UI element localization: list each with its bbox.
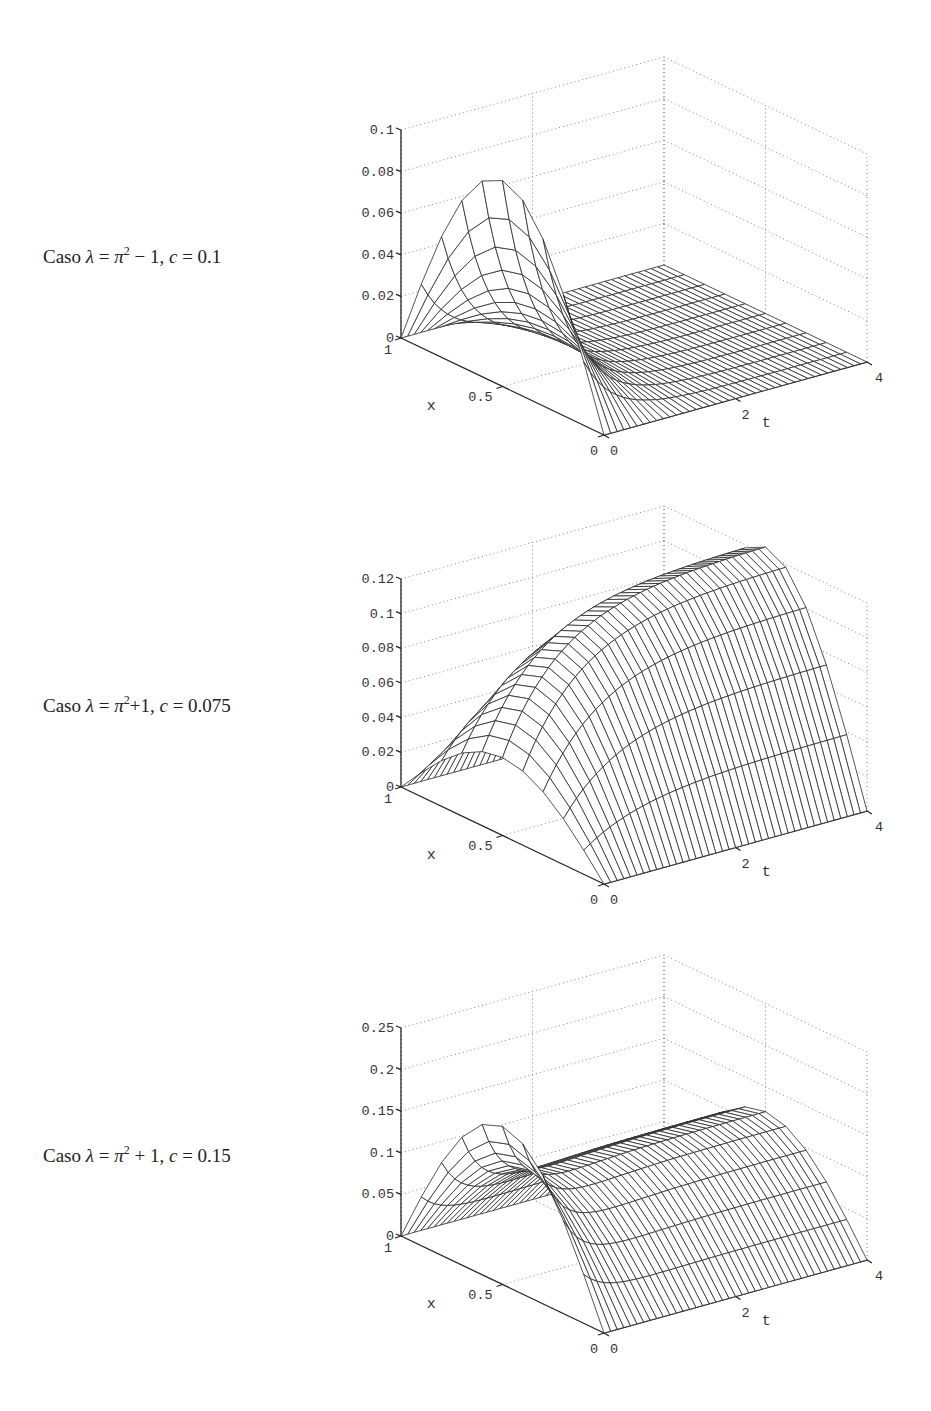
t-axis-label: t	[762, 1313, 771, 1330]
surface-plot-2: 00.020.040.060.080.10.1210.50024xt	[362, 506, 883, 908]
x-axis-label: x	[427, 1296, 436, 1313]
x-tick-label: 1	[384, 343, 392, 358]
z-tick-label: 0.15	[362, 1104, 394, 1119]
t-tick-label: 2	[741, 408, 749, 423]
z-tick-label: 0.06	[362, 676, 394, 691]
z-tick-label: 0.1	[370, 123, 394, 138]
t-tick-label: 0	[610, 444, 618, 459]
z-tick-label: 0.04	[362, 711, 394, 726]
surface-mesh	[401, 547, 867, 884]
t-tick-label: 4	[875, 371, 883, 386]
x-tick-label: 0.5	[468, 1288, 492, 1303]
z-tick-label: 0.1	[370, 1146, 394, 1161]
z-tick-label: 0.08	[362, 165, 394, 180]
x-axis-label: x	[427, 398, 436, 415]
t-tick-label: 4	[875, 1269, 883, 1284]
x-tick-label: 0.5	[468, 839, 492, 854]
z-tick-label: 0.05	[362, 1187, 394, 1202]
x-tick-label: 1	[384, 792, 392, 807]
x-tick-label: 0	[590, 1342, 598, 1357]
x-tick-label: 0	[590, 893, 598, 908]
t-tick-label: 0	[610, 1342, 618, 1357]
surface-plot-1: 00.020.040.060.080.110.50024xt	[362, 57, 883, 459]
t-tick-label: 0	[610, 893, 618, 908]
x-tick-label: 0	[590, 444, 598, 459]
z-tick-label: 0.06	[362, 206, 394, 221]
x-axis-label: x	[427, 847, 436, 864]
z-tick-label: 0.02	[362, 745, 394, 760]
t-axis-label: t	[762, 864, 771, 881]
z-tick-label: 0.25	[362, 1021, 394, 1036]
z-tick-label: 0.04	[362, 248, 394, 263]
z-tick-label: 0.02	[362, 289, 394, 304]
surface-plot-3: 00.050.10.150.20.2510.50024xt	[362, 955, 883, 1357]
surface-plots: 00.020.040.060.080.110.50024xt00.020.040…	[0, 0, 931, 1411]
x-tick-label: 0.5	[468, 390, 492, 405]
t-tick-label: 4	[875, 820, 883, 835]
t-axis-label: t	[762, 415, 771, 432]
z-tick-label: 0.12	[362, 572, 394, 587]
x-tick-label: 1	[384, 1241, 392, 1256]
z-tick-label: 0.08	[362, 641, 394, 656]
z-tick-label: 0.1	[370, 607, 394, 622]
t-tick-label: 2	[741, 1306, 749, 1321]
z-tick-label: 0.2	[370, 1063, 394, 1078]
t-tick-label: 2	[741, 857, 749, 872]
